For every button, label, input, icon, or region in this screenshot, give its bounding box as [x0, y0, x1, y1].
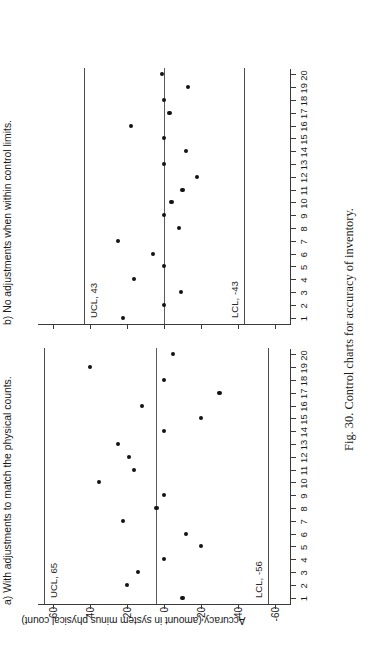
chart-b-x-tick-label: 13	[298, 160, 309, 170]
data-point	[162, 378, 166, 382]
chart-b-x-tick-label: 2	[298, 303, 309, 308]
data-point	[162, 98, 166, 102]
chart-b-x-tick-label: 14	[298, 147, 309, 157]
chart-a-x-tick	[291, 521, 296, 522]
data-point	[195, 175, 199, 179]
chart-b-x-tick-label: 12	[298, 173, 309, 183]
chart-b-x-tick	[291, 164, 296, 165]
data-point	[162, 162, 166, 166]
chart-a-y-tick	[90, 604, 91, 609]
chart-b-ucl-label: UCL, 43	[88, 283, 99, 318]
data-point	[97, 480, 101, 484]
data-point	[127, 455, 131, 459]
chart-a-x-tick	[291, 431, 296, 432]
chart-b-center-line	[164, 68, 165, 324]
chart-b-y-tick	[90, 324, 91, 329]
data-point	[199, 416, 203, 420]
chart-b-x-tick-label: 5	[298, 265, 309, 270]
data-point	[88, 365, 92, 369]
chart-a-x-tick-label: 14	[298, 427, 309, 437]
chart-b-y-tick	[201, 324, 202, 329]
chart-a-x-tick-label: 15	[298, 414, 309, 424]
data-point	[121, 316, 125, 320]
chart-a-x-tick	[291, 585, 296, 586]
chart-b-x-tick-label: 10	[298, 198, 309, 208]
chart-b-x-tick	[291, 87, 296, 88]
chart-b-x-tick	[291, 305, 296, 306]
chart-a-y-tick	[201, 604, 202, 609]
data-point	[136, 570, 140, 574]
chart-b-x-tick	[291, 190, 296, 191]
data-point	[140, 404, 144, 408]
chart-a-x-tick-label: 19	[298, 363, 309, 373]
chart-a-plot-area: UCL, 65LCL, -56	[38, 348, 290, 605]
chart-b-x-tick-label: 18	[298, 96, 309, 106]
chart-a-y-tick	[53, 604, 54, 609]
chart-a-center-line	[156, 348, 157, 604]
chart-a-x-tick	[291, 546, 296, 547]
chart-b-x-tick	[291, 100, 296, 101]
chart-b-lcl-label: LCL, -43	[229, 281, 240, 318]
data-point	[180, 188, 184, 192]
data-point	[125, 583, 129, 587]
chart-a-x-tick-label: 5	[298, 545, 309, 550]
chart-b-x-tick-label: 7	[298, 239, 309, 244]
data-point	[132, 277, 136, 281]
chart-b-x-tick	[291, 292, 296, 293]
chart-b-x-tick-label: 3	[298, 290, 309, 295]
chart-a-x-axis: 1234567891011121314151617181920	[290, 349, 291, 605]
chart-b-x-tick-label: 19	[298, 83, 309, 93]
chart-a-x-tick	[291, 508, 296, 509]
data-point	[167, 111, 171, 115]
chart-a-title: a) With adjustments to match the physica…	[2, 376, 13, 605]
chart-a-x-tick-label: 20	[298, 350, 309, 360]
figure-page: Accuracy (amount in system minus physica…	[0, 0, 371, 659]
chart-b-x-tick	[291, 74, 296, 75]
chart-b-x-tick	[291, 177, 296, 178]
chart-b-x-tick	[291, 318, 296, 319]
data-point	[162, 264, 166, 268]
chart-a-x-tick-label: 10	[298, 478, 309, 488]
chart-b-x-tick-label: 8	[298, 226, 309, 231]
chart-a-x-tick	[291, 457, 296, 458]
chart-a-x-tick-label: 16	[298, 401, 309, 411]
data-point	[162, 213, 166, 217]
chart-a-x-tick-label: 6	[298, 532, 309, 537]
data-point	[162, 493, 166, 497]
y-tick-label-column: 6040200-20-40-60	[38, 607, 290, 633]
chart-a-x-tick-label: 1	[298, 596, 309, 601]
chart-a-x-tick	[291, 572, 296, 573]
chart-b-x-tick	[291, 279, 296, 280]
data-point	[169, 200, 173, 204]
data-point	[154, 506, 158, 510]
data-point	[162, 136, 166, 140]
chart-a-x-tick-label: 9	[298, 494, 309, 499]
chart-b-x-axis: 1234567891011121314151617181920	[290, 69, 291, 325]
chart-b-x-tick-label: 15	[298, 134, 309, 144]
chart-panel-a: a) With adjustments to match the physica…	[0, 339, 330, 607]
data-point	[162, 429, 166, 433]
chart-b-x-tick	[291, 138, 296, 139]
chart-a-ucl-line	[44, 348, 45, 604]
chart-a-x-tick	[291, 495, 296, 496]
chart-a-x-tick-label: 13	[298, 440, 309, 450]
chart-a-x-tick-label: 8	[298, 506, 309, 511]
chart-a-x-tick	[291, 444, 296, 445]
chart-a-x-tick-label: 17	[298, 389, 309, 399]
chart-b-x-tick	[291, 228, 296, 229]
y-tick-label: -60	[270, 607, 281, 621]
chart-a-x-tick	[291, 482, 296, 483]
chart-b-x-tick	[291, 254, 296, 255]
figure-caption: Fig. 30. Control charts for accuracy of …	[342, 0, 357, 659]
chart-a-x-tick	[291, 534, 296, 535]
chart-a-x-tick-label: 3	[298, 570, 309, 575]
chart-a-x-tick	[291, 393, 296, 394]
chart-b-x-tick	[291, 202, 296, 203]
chart-a-ucl-label: UCL, 65	[48, 563, 59, 598]
chart-a-lcl-line	[268, 348, 269, 604]
chart-a-x-tick	[291, 470, 296, 471]
data-point	[180, 596, 184, 600]
data-point	[179, 290, 183, 294]
chart-b-x-tick	[291, 241, 296, 242]
data-point	[186, 85, 190, 89]
